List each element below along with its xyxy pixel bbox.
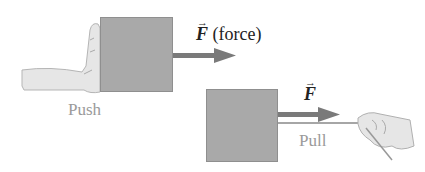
push-block: [100, 17, 173, 92]
force-note: (force): [213, 24, 262, 44]
force-vector-symbol: →F: [196, 24, 208, 44]
pull-block: [206, 89, 278, 162]
pull-label: Pull: [299, 131, 326, 151]
pull-force-arrow: [278, 107, 340, 122]
force-vector-symbol: →F: [304, 84, 316, 104]
push-force-label: →F (force): [196, 24, 261, 45]
push-label: Push: [68, 100, 101, 120]
push-force-arrow: [173, 48, 236, 63]
force-diagram: →F (force) →F Push Pull: [0, 0, 425, 172]
pull-hand-icon: [358, 113, 414, 160]
push-hand-icon: [22, 24, 100, 93]
pull-force-label: →F: [304, 84, 316, 105]
